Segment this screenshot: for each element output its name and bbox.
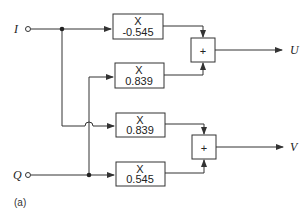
q-terminal-icon [26, 173, 31, 178]
i-junction-dot-icon [60, 27, 65, 32]
output-v-label: V [290, 140, 299, 154]
mult3-to-sum2-wire [165, 124, 204, 134]
mult1-coef: -0.545 [122, 26, 153, 38]
block-diagram: I Q U V X -0.545 X 0.839 X 0.839 X 0.545… [0, 0, 306, 218]
figure-caption: (a) [14, 197, 26, 208]
q-junction-dot-icon [87, 173, 92, 178]
mult4-coef: 0.545 [126, 173, 154, 185]
output-u-label: U [290, 43, 300, 57]
mult4-to-sum2-wire [165, 160, 204, 173]
mult2-coef: 0.839 [125, 75, 153, 87]
i-terminal-icon [26, 27, 31, 32]
input-i-label: I [13, 22, 19, 36]
sum2-plus-icon: + [201, 142, 207, 154]
mult3-coef: 0.839 [126, 124, 154, 136]
mult2-to-sum1-wire [164, 63, 203, 75]
i-branch-wire [62, 29, 85, 126]
sum1-plus-icon: + [200, 45, 206, 57]
input-q-label: Q [13, 168, 22, 182]
mult1-to-sum1-wire [163, 26, 203, 37]
